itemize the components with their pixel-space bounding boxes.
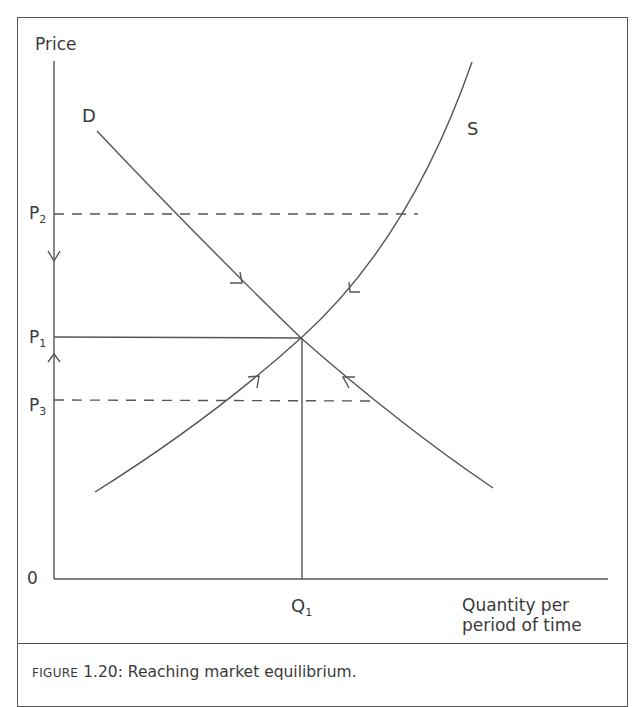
quantity-axis-label-line1: Quantity per — [462, 597, 569, 614]
p3-dashed-line — [54, 400, 378, 401]
p3-label: P3 — [29, 397, 46, 414]
p2-label: P2 — [29, 205, 46, 222]
quantity-axis-label-line2: period of time — [462, 617, 582, 634]
p1-label: P1 — [29, 329, 46, 346]
p1-line — [54, 337, 301, 338]
q1-label: Q1 — [291, 597, 312, 615]
caption-text: Reaching market equilibrium. — [128, 663, 357, 681]
supply-label: S — [467, 120, 478, 138]
price-axis-label: Price — [35, 36, 76, 53]
demand-curve — [97, 131, 493, 488]
figure-caption: Figure 1.20: Reaching market equilibrium… — [32, 663, 357, 681]
origin-label: 0 — [27, 570, 38, 587]
supply-curve — [95, 62, 472, 492]
caption-prefix: Figure — [32, 666, 78, 680]
demand-label: D — [82, 107, 96, 125]
caption-number: 1.20: — [83, 663, 123, 681]
